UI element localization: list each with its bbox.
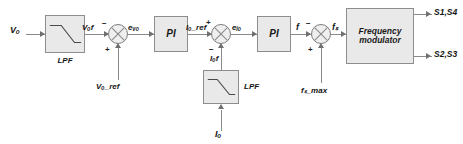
- block-label-pi-current: PI: [258, 29, 290, 40]
- signal-label-input-io: Iₒ: [215, 129, 221, 139]
- block-pi-current: PI: [257, 16, 291, 52]
- signal-label-fs-max: fₛ_max: [301, 86, 327, 95]
- sign-frequency-left: −: [306, 20, 311, 28]
- signal-label-f: f: [296, 22, 299, 32]
- lowpass-response-icon-current: [204, 71, 238, 103]
- arrowhead-fsmax-sum: [318, 43, 324, 48]
- signal-label-io-ref: Iₒ_ref: [186, 23, 206, 32]
- sign-voltage-left: −: [102, 20, 107, 28]
- wire-iof-to-sum: [221, 48, 222, 70]
- summing-junction-current: [211, 24, 231, 44]
- sign-current-bottom: −: [209, 46, 214, 54]
- output-label-bottom: S2,S3: [434, 49, 457, 59]
- arrowhead-voref-sum: [115, 43, 121, 48]
- signal-label-iof: Iₒf: [210, 54, 218, 63]
- lowpass-response-icon: [46, 16, 84, 52]
- signal-label-vof: Vₒf: [82, 23, 93, 32]
- wire-io-to-lpf: [221, 110, 222, 131]
- signal-label-input-vo: Vₒ: [10, 25, 20, 35]
- signal-label-evo: eᵥₒ: [128, 23, 139, 32]
- block-label-pi-voltage: PI: [155, 29, 187, 40]
- summing-junction-frequency: [311, 24, 331, 44]
- sign-current-left: +: [206, 19, 211, 27]
- signal-label-fs: fₛ: [332, 22, 338, 32]
- control-block-diagram: Vₒ LPF Vₒf − + Vₒ_ref eᵥₒ PI Iₒ_ref + − …: [0, 0, 463, 144]
- block-label-lpf-voltage: LPF: [45, 56, 85, 65]
- block-frequency-modulator: Frequency modulator: [346, 8, 414, 64]
- arrowhead-output-bottom: [426, 53, 431, 59]
- wire-fsmax-to-sum: [321, 48, 322, 83]
- sign-frequency-bottom: +: [308, 46, 313, 54]
- arrowhead-io-lpf: [218, 104, 224, 109]
- summing-junction-voltage: [108, 24, 128, 44]
- signal-label-eio: eᵢₒ: [232, 23, 241, 32]
- block-pi-voltage: PI: [154, 16, 188, 52]
- arrowhead-output-top: [426, 11, 431, 17]
- block-lpf-voltage: [45, 15, 85, 53]
- sign-voltage-bottom: +: [105, 46, 110, 54]
- block-lpf-current: [203, 70, 239, 104]
- output-label-top: S1,S4: [434, 7, 457, 17]
- wire-voref-to-sum: [118, 48, 119, 80]
- signal-label-vo-ref: Vₒ_ref: [96, 82, 119, 91]
- arrowhead-iof-sum: [218, 43, 224, 48]
- block-label-lpf-current: LPF: [244, 82, 259, 91]
- block-label-modulator-line2: modulator: [359, 35, 401, 45]
